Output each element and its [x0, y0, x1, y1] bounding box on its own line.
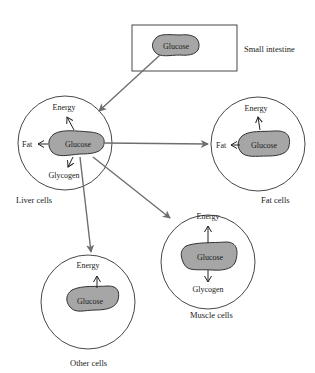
glycogen-label: Glycogen — [192, 285, 223, 294]
arrow-liver-to-muscle — [93, 157, 170, 218]
arrow-liver-to-fat — [104, 143, 208, 144]
liver-cells-label: Liver cells — [16, 195, 52, 205]
fat-cells-label: Fat cells — [261, 195, 290, 205]
glucose-label: Glucose — [251, 141, 278, 150]
other-cells-label: Other cells — [70, 358, 107, 368]
glucose-label: Glucose — [77, 297, 104, 306]
glucose-label: Glucose — [163, 42, 190, 51]
muscle-cell-group: Glucose Energy Glycogen Muscle cells — [161, 212, 255, 320]
glucose-label: Glucose — [197, 253, 224, 262]
energy-label: Energy — [53, 103, 76, 112]
energy-label: Energy — [245, 104, 268, 113]
glucose-diagram: Glucose Small intestine Glucose Energy F… — [0, 0, 315, 373]
muscle-cells-label: Muscle cells — [190, 310, 233, 320]
fat-label: Fat — [216, 141, 227, 150]
fat-cell-group: Glucose Energy Fat Fat cells — [211, 97, 305, 205]
fat-label: Fat — [22, 140, 33, 149]
small-intestine-label: Small intestine — [244, 44, 295, 54]
liver-cell-group: Glucose Energy Fat Glycogen Liver cells — [16, 96, 112, 205]
arrow-intestine-to-liver — [99, 55, 160, 111]
energy-label: Energy — [77, 261, 100, 270]
other-cell-group: Glucose Energy Other cells — [41, 255, 135, 368]
small-intestine-group: Glucose Small intestine — [132, 25, 295, 71]
energy-label: Energy — [197, 212, 220, 221]
glycogen-label: Glycogen — [48, 171, 79, 180]
glucose-label: Glucose — [65, 140, 92, 149]
